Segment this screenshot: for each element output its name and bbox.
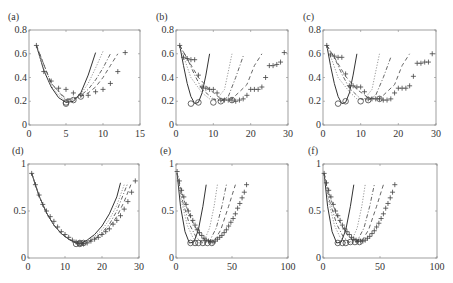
- plus-marker: [383, 206, 388, 211]
- y-tick-label: 1: [169, 158, 174, 169]
- plus-marker: [190, 218, 195, 223]
- y-tick-label: 0.8: [15, 24, 28, 35]
- plus-marker: [241, 96, 246, 101]
- series-dotted: [32, 173, 125, 244]
- plus-marker: [231, 216, 236, 221]
- plus-marker: [115, 69, 120, 74]
- plus-marker: [322, 171, 327, 176]
- y-tick-label: 0.6: [162, 48, 175, 59]
- plus-marker: [100, 232, 105, 237]
- plus-marker: [392, 182, 397, 187]
- plus-marker: [63, 232, 68, 237]
- panel-e: (e) 05010000.51: [160, 145, 296, 272]
- y-tick-label: 0.5: [309, 205, 322, 216]
- plus-marker: [233, 211, 238, 216]
- plus-marker: [244, 93, 249, 98]
- plus-marker: [358, 85, 363, 90]
- plus-marker: [237, 201, 242, 206]
- plus-marker: [379, 216, 384, 221]
- plus-marker: [192, 57, 197, 62]
- plus-marker: [244, 182, 249, 187]
- x-tick-label: 20: [246, 128, 256, 139]
- panel-label-b: (b): [156, 11, 168, 23]
- y-tick-label: 0.2: [15, 95, 28, 106]
- y-tick-label: 0: [316, 252, 321, 263]
- panel-d: (d) 010203000.51: [12, 145, 144, 272]
- plus-marker: [71, 90, 76, 95]
- plus-marker: [370, 231, 375, 236]
- plus-marker: [333, 209, 338, 214]
- plus-marker: [242, 190, 247, 195]
- plus-marker: [66, 235, 71, 240]
- y-tick-label: 0.8: [162, 24, 175, 35]
- plus-marker: [256, 87, 261, 92]
- axes-frame: [176, 30, 288, 125]
- plus-marker: [374, 224, 379, 229]
- panel-label-c: (c): [303, 11, 314, 23]
- series-dashdot: [180, 45, 244, 101]
- x-tick-label: 100: [430, 261, 445, 272]
- panel-label-d: (d): [12, 145, 24, 157]
- series-dashed: [36, 45, 117, 99]
- plus-marker: [55, 224, 60, 229]
- plus-marker: [390, 190, 395, 195]
- y-tick-label: 0.4: [15, 72, 28, 83]
- plus-marker: [274, 62, 279, 67]
- y-tick-label: 0: [22, 119, 27, 130]
- plus-marker: [175, 169, 180, 174]
- x-tick-label: 5: [64, 128, 69, 139]
- plus-marker: [118, 213, 123, 218]
- plus-marker: [344, 229, 349, 234]
- x-tick-label: 20: [97, 261, 107, 272]
- plus-marker: [240, 195, 245, 200]
- plus-marker: [129, 190, 134, 195]
- y-tick-label: 0.6: [309, 48, 322, 59]
- plus-marker: [282, 50, 287, 55]
- panel-label-e: (e): [160, 145, 171, 157]
- y-tick-label: 0.4: [309, 72, 322, 83]
- x-tick-label: 0: [174, 261, 179, 272]
- plus-marker: [29, 171, 34, 176]
- y-tick-label: 0: [169, 252, 174, 263]
- plus-marker: [101, 87, 106, 92]
- y-tick-label: 0.2: [162, 95, 175, 106]
- plus-marker: [185, 56, 190, 61]
- plus-marker: [186, 209, 191, 214]
- y-tick-label: 0.5: [162, 205, 175, 216]
- plus-marker: [237, 98, 242, 103]
- plus-marker: [125, 199, 130, 204]
- plus-marker: [376, 221, 381, 226]
- panel-c: (c) 010203000.20.40.60.8: [303, 11, 441, 139]
- axes-frame: [29, 30, 140, 125]
- plus-marker: [40, 202, 45, 207]
- x-tick-label: 30: [431, 128, 441, 139]
- plus-marker: [93, 89, 98, 94]
- plus-marker: [34, 43, 39, 48]
- x-tick-label: 50: [375, 261, 385, 272]
- plus-marker: [271, 63, 276, 68]
- panel-f: (f) 05010000.51: [308, 145, 445, 272]
- x-tick-label: 30: [283, 128, 293, 139]
- plus-marker: [108, 81, 113, 86]
- plus-marker: [324, 43, 329, 48]
- plus-marker: [181, 194, 186, 199]
- y-tick-label: 0: [169, 119, 174, 130]
- x-tick-label: 20: [393, 128, 403, 139]
- plus-marker: [381, 211, 386, 216]
- x-tick-label: 0: [174, 128, 179, 139]
- panel-b: (b) 010203000.20.40.60.8: [156, 11, 293, 139]
- panel-a: (a) 05101500.20.40.60.8: [8, 11, 145, 139]
- circle-marker: [211, 100, 217, 106]
- plus-marker: [388, 96, 393, 101]
- series-solid: [36, 45, 95, 102]
- series-dashed: [327, 45, 410, 99]
- plus-marker: [203, 86, 208, 91]
- series-dashed: [180, 45, 262, 99]
- plus-marker: [338, 218, 343, 223]
- plus-marker: [392, 90, 397, 95]
- x-tick-label: 10: [60, 261, 70, 272]
- x-tick-label: 10: [356, 128, 366, 139]
- x-tick-label: 15: [135, 128, 145, 139]
- series-dotted: [180, 45, 232, 99]
- x-tick-label: 30: [134, 261, 144, 272]
